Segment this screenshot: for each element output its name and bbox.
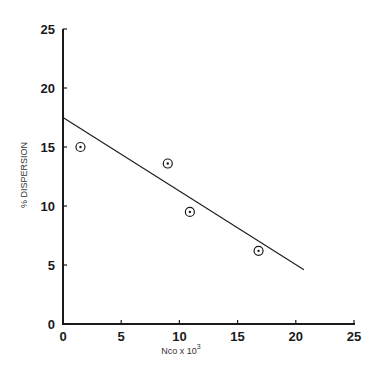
regression-line <box>63 118 304 270</box>
data-point-marker-icon <box>185 207 194 216</box>
chart: 05101520250510152025 % DISPERSION Nco x … <box>0 0 378 370</box>
axes <box>63 29 355 325</box>
data-points <box>76 143 263 256</box>
fit-line <box>63 118 304 270</box>
y-axis-title: % DISPERSION <box>19 142 29 208</box>
y-tick-label: 0 <box>48 317 55 332</box>
x-axis-title: Nco x 103 <box>161 343 201 356</box>
ticks: 05101520250510152025 <box>41 22 362 344</box>
y-tick-label: 5 <box>48 258 55 273</box>
x-tick-label: 25 <box>347 329 361 344</box>
y-tick-label: 25 <box>41 22 55 37</box>
x-tick-label: 20 <box>289 329 303 344</box>
x-tick-label: 5 <box>118 329 125 344</box>
y-tick-label: 10 <box>41 199 55 214</box>
data-point-marker-icon <box>254 246 263 255</box>
y-tick-label: 15 <box>41 140 55 155</box>
data-point-marker-icon <box>76 143 85 152</box>
x-tick-label: 0 <box>59 329 66 344</box>
data-point-marker-icon <box>163 159 172 168</box>
x-axis-title-text: Nco x 10 <box>161 346 197 356</box>
x-axis-title-superscript: 3 <box>197 343 201 350</box>
x-tick-label: 10 <box>172 329 186 344</box>
x-tick-label: 15 <box>230 329 244 344</box>
y-tick-label: 20 <box>41 81 55 96</box>
